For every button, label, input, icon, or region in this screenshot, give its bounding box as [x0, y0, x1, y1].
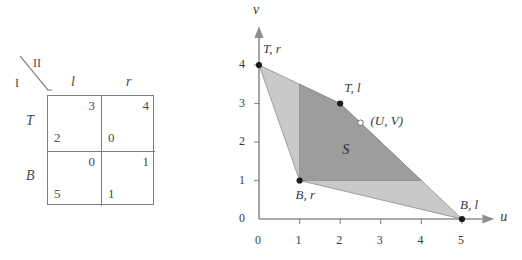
point-label-B,r: B, r [296, 187, 316, 203]
x-tick-label-5: 5 [458, 233, 464, 248]
matrix-cell-B-r: 1 1 [102, 152, 155, 207]
x-tick-label-2: 2 [336, 233, 342, 248]
column-header-l: l [71, 74, 75, 90]
point-label-T,r: T, r [263, 41, 281, 57]
x-axis-arrow-icon [482, 215, 494, 224]
row-header-T: T [26, 113, 34, 129]
x-axis-label: u [500, 209, 507, 225]
payoff-plot-panel: v u 01234012345T, rT, lB, rB, l(U, V)S [210, 0, 522, 260]
matrix-cell-T-l: 3 2 [48, 96, 101, 151]
matrix-cell-B-l: 0 5 [48, 152, 101, 207]
y-axis-label: v [253, 2, 259, 18]
y-axis-arrow-icon [255, 26, 264, 38]
region-bargaining-set-S [300, 84, 422, 180]
cell-payoff-row: 5 [54, 186, 61, 202]
point-label-UV: (U, V) [371, 113, 404, 129]
cell-payoff-row: 0 [108, 130, 115, 146]
figure-root: II I l r T B 3 2 4 0 0 5 1 1 [0, 0, 522, 260]
cell-payoff-column: 4 [143, 98, 150, 114]
payoff-matrix-grid: 3 2 4 0 0 5 1 1 [47, 95, 154, 205]
data-point-UV [358, 120, 364, 126]
x-tick-label-4: 4 [417, 233, 423, 248]
y-tick-label-0: 0 [239, 211, 245, 226]
point-label-T,l: T, l [344, 80, 360, 96]
y-tick-label-1: 1 [239, 173, 245, 188]
row-header-B: B [26, 168, 35, 184]
y-tick-label-2: 2 [239, 134, 245, 149]
payoff-region-plot [210, 0, 522, 260]
payoff-matrix-panel: II I l r T B 3 2 4 0 0 5 1 1 [0, 0, 210, 260]
cell-payoff-column: 1 [143, 154, 150, 170]
row-player-label: I [15, 76, 19, 91]
point-label-B,l: B, l [460, 197, 478, 213]
cell-payoff-row: 1 [108, 186, 115, 202]
x-tick-label-1: 1 [296, 233, 302, 248]
y-tick-label-4: 4 [239, 57, 245, 72]
matrix-cell-T-r: 4 0 [102, 96, 155, 151]
cell-payoff-column: 3 [89, 98, 96, 114]
x-tick-label-3: 3 [377, 233, 383, 248]
data-point-T,l [337, 100, 343, 106]
data-point-B,l [459, 216, 465, 222]
x-tick-label-0: 0 [255, 233, 261, 248]
y-tick-label-3: 3 [239, 96, 245, 111]
cell-payoff-column: 0 [89, 154, 96, 170]
data-point-T,r [256, 62, 262, 68]
data-point-B,r [297, 177, 303, 183]
column-header-r: r [126, 74, 131, 90]
column-player-label: II [33, 56, 41, 71]
cell-payoff-row: 2 [54, 130, 61, 146]
region-label-bargaining-set-S: S [342, 142, 349, 158]
